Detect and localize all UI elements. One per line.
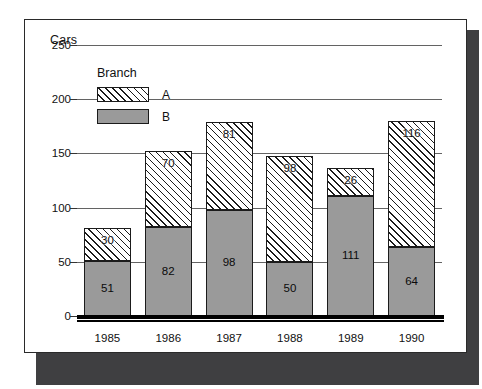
y-tick-label-0: 0 (33, 310, 71, 322)
y-tick-label-250: 250 (33, 39, 71, 51)
y-tick-label-150: 150 (33, 147, 71, 159)
legend-swatch-b-icon (97, 109, 149, 124)
y-tick-mark-150 (70, 153, 77, 154)
x-tick-label-1988: 1988 (260, 332, 320, 344)
bar-segment-a-1988[interactable]: 98 (266, 156, 313, 262)
bar-segment-b-1985[interactable]: 51 (84, 261, 131, 316)
bar-group-1987[interactable]: 9881 (206, 45, 253, 316)
stacked-bar-chart: Cars 050100150200250 5130827098815098111… (25, 20, 466, 352)
bar-value-label-a-1989: 26 (344, 175, 357, 187)
bar-group-1989[interactable]: 11126 (327, 45, 374, 316)
x-tick-label-1989: 1989 (321, 332, 381, 344)
bar-segment-b-1989[interactable]: 111 (327, 196, 374, 316)
x-axis-baseline-lower (77, 320, 444, 322)
bar-value-label-a-1988: 98 (284, 163, 297, 175)
legend: Branch A B (97, 66, 170, 124)
bar-segment-a-1990[interactable]: 116 (388, 121, 435, 247)
y-tick-mark-250 (70, 45, 77, 46)
legend-title: Branch (97, 66, 170, 80)
bar-segment-a-1987[interactable]: 81 (206, 122, 253, 210)
bar-group-1988[interactable]: 5098 (266, 45, 313, 316)
bar-group-1990[interactable]: 64116 (388, 45, 435, 316)
x-tick-label-1986: 1986 (138, 332, 198, 344)
bar-segment-a-1989[interactable]: 26 (327, 168, 374, 196)
bar-value-label-b-1985: 51 (101, 283, 114, 295)
bar-value-label-b-1988: 50 (284, 283, 297, 295)
legend-swatch-a-icon (97, 87, 149, 102)
y-tick-label-200: 200 (33, 93, 71, 105)
x-tick-label-1987: 1987 (199, 332, 259, 344)
bar-value-label-a-1985: 30 (101, 235, 114, 247)
y-tick-mark-100 (70, 208, 77, 209)
bar-segment-a-1985[interactable]: 30 (84, 228, 131, 261)
y-tick-label-50: 50 (33, 256, 71, 268)
bar-segment-b-1990[interactable]: 64 (388, 247, 435, 316)
y-tick-mark-200 (70, 99, 77, 100)
x-tick-label-1990: 1990 (382, 332, 442, 344)
x-tick-label-1985: 1985 (77, 332, 137, 344)
legend-label-b: B (162, 110, 170, 124)
bar-segment-b-1988[interactable]: 50 (266, 262, 313, 316)
bar-value-label-a-1987: 81 (223, 129, 236, 141)
screenshot-root: Cars 050100150200250 5130827098815098111… (0, 0, 482, 389)
bar-segment-b-1987[interactable]: 98 (206, 210, 253, 316)
bar-value-label-b-1989: 111 (342, 250, 359, 262)
y-tick-mark-0 (70, 316, 77, 317)
bar-value-label-a-1986: 70 (162, 158, 175, 170)
bar-value-label-a-1990: 116 (402, 128, 420, 140)
bar-value-label-b-1986: 82 (162, 266, 175, 278)
bar-value-label-b-1990: 64 (405, 276, 418, 288)
legend-label-a: A (162, 88, 170, 102)
y-tick-label-100: 100 (33, 202, 71, 214)
y-tick-mark-50 (70, 262, 77, 263)
bar-value-label-b-1987: 98 (223, 257, 236, 269)
legend-item-b[interactable]: B (97, 109, 170, 124)
legend-item-a[interactable]: A (97, 87, 170, 102)
bar-segment-b-1986[interactable]: 82 (145, 227, 192, 316)
bar-segment-a-1986[interactable]: 70 (145, 151, 192, 227)
chart-card: Cars 050100150200250 5130827098815098111… (24, 19, 467, 353)
